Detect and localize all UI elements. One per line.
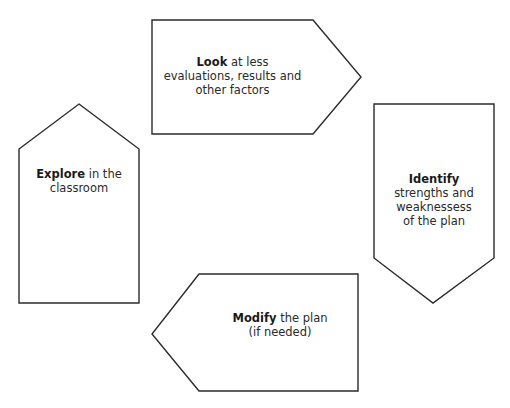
- look-line3: other factors: [160, 83, 305, 97]
- modify-line1: the plan: [277, 311, 328, 325]
- explore-line1: in the: [85, 167, 122, 181]
- look-keyword: Look: [197, 55, 228, 69]
- look-line2: evaluations, results and: [160, 69, 305, 83]
- explore-arrow-shape: [19, 104, 139, 303]
- identify-line4: of the plan: [376, 214, 492, 228]
- identify-line2: strengths and: [376, 186, 492, 200]
- explore-keyword: Explore: [36, 167, 85, 181]
- modify-label: Modify the plan (if needed): [205, 311, 355, 339]
- look-line1: at less: [227, 55, 268, 69]
- explore-line2: classroom: [20, 181, 138, 195]
- identify-label: Identify strengths and weaknessess of th…: [376, 172, 492, 228]
- modify-line2: (if needed): [205, 325, 355, 339]
- identify-keyword: Identify: [409, 172, 459, 186]
- identify-line3: weaknessess: [376, 200, 492, 214]
- look-label: Look at less evaluations, results and ot…: [160, 55, 305, 97]
- modify-keyword: Modify: [232, 311, 276, 325]
- explore-label: Explore in the classroom: [20, 167, 138, 195]
